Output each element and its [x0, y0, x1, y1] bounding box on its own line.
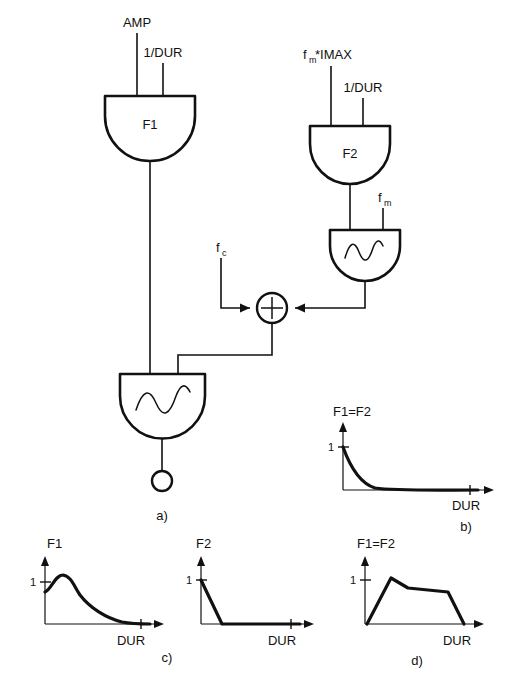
chart-d-x-axis-arrowhead: [474, 620, 484, 628]
adder-output-wire: [178, 323, 272, 374]
fm-synthesis-figure: F1 F2: [0, 0, 506, 690]
modulator-to-adder-arrowhead: [295, 304, 305, 313]
panel-c-caption: c): [162, 650, 173, 665]
output-terminal-icon: [152, 471, 172, 491]
gate-f2-label: F2: [342, 146, 357, 161]
oscillator-modulator: [330, 230, 400, 281]
chart-f2-curve: [201, 580, 300, 624]
chart-f2-x-axis-arrowhead: [304, 620, 314, 628]
modulator-output-wire: [295, 281, 365, 308]
chart-c-curve: [45, 575, 150, 624]
chart-c-y-axis-arrowhead: [41, 556, 49, 566]
chart-b-ytick-1-label: 1: [328, 441, 334, 453]
fc-subscript: c: [222, 248, 227, 258]
instrument-diagram: F1 F2: [105, 15, 400, 523]
fm-imax-base: f: [303, 47, 307, 62]
chart-b-x-axis-arrowhead: [484, 486, 494, 494]
dur-inv-2-label: 1/DUR: [343, 80, 382, 95]
amp-label: AMP: [123, 15, 151, 30]
fm-base: f: [378, 190, 382, 205]
chart-f2-ytick-1-label: 1: [186, 574, 192, 586]
fc-input-wire: [221, 258, 250, 308]
chart-d-y-axis-arrowhead: [361, 556, 369, 566]
gate-f1-label: F1: [142, 117, 157, 132]
chart-f2-y-axis-arrowhead: [197, 556, 205, 566]
chart-b-curve: [343, 447, 478, 490]
chart-f2-ylabel: F2: [196, 536, 211, 551]
chart-panel-d: F1=F2 1 DUR d): [350, 536, 484, 668]
chart-panel-c-left: F1 1 DUR c): [30, 536, 173, 665]
chart-c-xlabel: DUR: [117, 633, 145, 648]
chart-b-ylabel: F1=F2: [333, 404, 371, 419]
panel-a-caption: a): [156, 508, 168, 523]
chart-c-ytick-1-label: 1: [30, 576, 36, 588]
chart-b-y-axis-arrowhead: [339, 422, 347, 432]
fm-subscript: m: [384, 198, 392, 208]
chart-d-ytick-1-label: 1: [350, 574, 356, 586]
chart-panel-b: F1=F2 1 DUR b): [328, 404, 494, 534]
fm-label: f m: [378, 190, 392, 208]
panel-d-caption: d): [411, 653, 423, 668]
chart-panel-c-middle: F2 1 DUR: [186, 536, 314, 648]
fc-base: f: [216, 240, 220, 255]
fc-to-adder-arrowhead: [240, 304, 250, 313]
fm-imax-label: f m *IMAX: [303, 47, 352, 65]
chart-c-x-axis-arrowhead: [154, 620, 164, 628]
fc-label: f c: [216, 240, 227, 258]
oscillator-carrier: [120, 374, 205, 439]
fm-imax-rest: *IMAX: [315, 47, 352, 62]
chart-b-xlabel: DUR: [452, 498, 480, 513]
panel-b-caption: b): [460, 519, 472, 534]
dur-inv-1-label: 1/DUR: [143, 45, 182, 60]
chart-d-curve: [367, 578, 464, 624]
chart-d-ylabel: F1=F2: [357, 536, 395, 551]
chart-c-ylabel: F1: [47, 536, 62, 551]
chart-f2-xlabel: DUR: [268, 633, 296, 648]
chart-d-xlabel: DUR: [443, 633, 471, 648]
